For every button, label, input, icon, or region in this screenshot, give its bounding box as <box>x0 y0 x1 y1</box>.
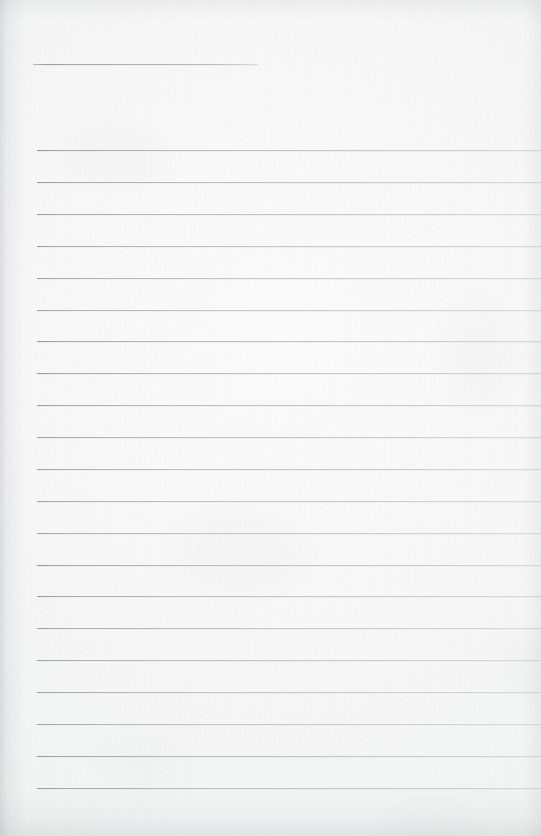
notebook-page <box>0 0 541 836</box>
paper-background <box>0 0 541 836</box>
